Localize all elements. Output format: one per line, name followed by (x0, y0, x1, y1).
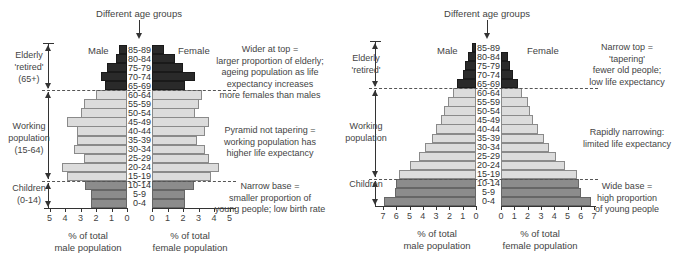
female-tick (541, 206, 542, 210)
female-bar-60-64 (501, 88, 522, 97)
male-tick-label: 4 (417, 211, 429, 221)
male-axis-label: % of totalmale population (387, 228, 487, 252)
age-arrow-shaft (487, 20, 488, 34)
side-label-elderly: Elderly'retired' (337, 52, 395, 76)
male-bar-0-4 (384, 197, 476, 206)
male-tick (449, 206, 450, 210)
annotation-line: Narrow top = (562, 42, 676, 54)
female-tick-label: 0 (495, 211, 507, 221)
annotation-line: of young people (562, 204, 676, 216)
male-bar-25-29 (419, 152, 476, 161)
female-bar-40-44 (501, 124, 538, 133)
female-tick-label: 2 (522, 211, 534, 221)
male-axis-label-line: % of total (387, 228, 487, 240)
male-tick (383, 206, 384, 210)
male-bar-20-24 (410, 161, 477, 170)
working-children-divider (369, 179, 598, 180)
male-tick-label: 6 (390, 211, 402, 221)
male-tick (436, 206, 437, 210)
male-label: Male (437, 46, 458, 56)
female-tick-label: 1 (508, 211, 520, 221)
male-bar-10-14 (396, 179, 476, 188)
female-tick-label: 3 (535, 211, 547, 221)
male-bar-30-34 (425, 143, 476, 152)
top-label: Different age groups (427, 9, 547, 19)
male-tick-label: 1 (457, 211, 469, 221)
female-bar-75-79 (501, 61, 510, 70)
male-bar-70-74 (463, 70, 476, 79)
female-axis-label-line: female population (490, 240, 590, 252)
annotation-line: Wide base = (562, 181, 676, 193)
female-bar-80-84 (501, 52, 508, 61)
age-group-label: 0-4 (476, 196, 501, 206)
elderly-working-divider (369, 88, 598, 89)
male-tick-label: 5 (404, 211, 416, 221)
annotation-line: Rapidly narrowing: (562, 127, 676, 139)
working-arrow-up-icon (372, 90, 378, 96)
male-bar-15-19 (399, 170, 476, 179)
female-tick (528, 206, 529, 210)
female-bar-25-29 (501, 152, 556, 161)
male-bar-45-49 (441, 115, 476, 124)
female-bar-50-54 (501, 106, 530, 115)
working-arrow-down-icon (372, 171, 378, 177)
male-tick (423, 206, 424, 210)
annotation-line: limited life expectancy (562, 139, 676, 151)
children-arrow-down-icon (372, 199, 378, 205)
elderly-arrow-up-icon (372, 43, 378, 49)
male-tick (463, 206, 464, 210)
female-tick (501, 206, 502, 210)
female-axis-label: % of totalfemale population (490, 228, 590, 252)
side-label-line: 'retired' (337, 64, 395, 76)
male-tick-label: 7 (377, 211, 389, 221)
female-tick (514, 206, 515, 210)
male-bar-75-79 (465, 61, 476, 70)
male-bar-65-69 (457, 79, 476, 88)
annotation-line: fewer old people; (562, 65, 676, 77)
annotation-line: low life expectancy (562, 77, 676, 89)
female-bar-30-34 (501, 143, 549, 152)
age-arrow-head-icon (484, 33, 490, 39)
annotation-top: Narrow top ='tapering'fewer old people;l… (562, 42, 676, 88)
male-tick (476, 206, 477, 210)
male-bar-80-84 (468, 52, 476, 61)
side-label-working: Workingpopulation (337, 120, 395, 144)
male-x-axis (375, 206, 476, 207)
female-tick (554, 206, 555, 210)
male-axis-label-line: male population (387, 240, 487, 252)
male-bar-5-9 (395, 188, 476, 197)
male-bar-55-59 (448, 97, 476, 106)
male-bar-60-64 (453, 88, 476, 97)
female-bar-55-59 (501, 97, 528, 106)
elderly-arrow-down-icon (372, 81, 378, 87)
annotation-middle: Rapidly narrowing:limited life expectanc… (562, 127, 676, 150)
female-bar-70-74 (501, 70, 513, 79)
male-bar-50-54 (444, 106, 476, 115)
male-tick (396, 206, 397, 210)
female-bar-20-24 (501, 161, 565, 170)
female-axis-label-line: % of total (490, 228, 590, 240)
male-bar-35-39 (432, 134, 476, 143)
annotation-line: high proportion (562, 193, 676, 205)
female-label: Female (527, 46, 559, 56)
annotation-line: 'tapering' (562, 54, 676, 66)
side-label-children: Children (337, 178, 395, 190)
female-tick-label: 4 (548, 211, 560, 221)
side-label-line: Elderly (337, 52, 395, 64)
female-bar-45-49 (501, 115, 533, 124)
side-label-line: population (337, 132, 395, 144)
male-tick-label: 2 (443, 211, 455, 221)
male-tick-label: 0 (470, 211, 482, 221)
side-label-line: Children (337, 178, 395, 190)
male-bar-40-44 (436, 124, 476, 133)
male-tick-label: 3 (430, 211, 442, 221)
female-bar-15-19 (501, 170, 577, 179)
female-bar-65-69 (501, 79, 518, 88)
side-label-line: Working (337, 120, 395, 132)
annotation-bottom: Wide base =high proportionof young peopl… (562, 181, 676, 216)
female-bar-35-39 (501, 134, 544, 143)
male-tick (410, 206, 411, 210)
